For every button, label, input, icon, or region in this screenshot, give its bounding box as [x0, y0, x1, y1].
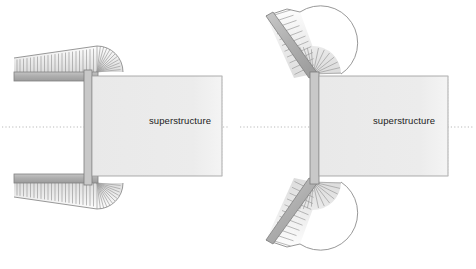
figure-root: superstructure — [0, 0, 476, 269]
lower-wedge-fill — [14, 183, 97, 209]
abutment-back-wall — [310, 72, 319, 184]
diagram-splayed-wingwall-abutment: superstructure — [240, 6, 474, 250]
superstructure-label: superstructure — [149, 115, 211, 126]
superstructure-box — [92, 76, 222, 176]
lower-embankment-wedge — [14, 183, 123, 209]
upper-wedge-fill — [14, 46, 97, 72]
superstructure-box — [319, 76, 448, 176]
abutment-back-wall — [84, 70, 92, 185]
superstructure-label: superstructure — [373, 115, 435, 126]
diagram-straight-wingwall-abutment: superstructure — [2, 46, 228, 209]
upper-embankment-wedge — [14, 46, 123, 72]
bridge-abutment-diagram: superstructure — [0, 0, 476, 269]
